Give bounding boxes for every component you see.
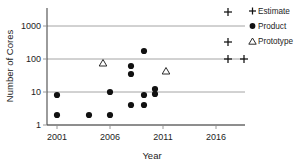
x-tick-label-2006: 2006 — [100, 132, 120, 142]
data-point-product — [141, 102, 147, 108]
y-tick-label-1000: 1000 — [21, 21, 41, 31]
legend-label-estimate: Estimate — [258, 7, 290, 16]
data-point-product — [107, 112, 113, 118]
data-point-product — [152, 91, 158, 97]
chart-figure: 1000 100 10 1 2001 2006 2011 2016 Year N… — [0, 0, 299, 164]
x-tick-label-2016: 2016 — [206, 132, 226, 142]
x-tick-label-2001: 2001 — [47, 132, 67, 142]
data-point-product — [128, 63, 134, 69]
y-axis-title: Number of Cores — [4, 30, 15, 103]
circle-icon — [250, 23, 256, 29]
data-point-product — [128, 102, 134, 108]
data-point-product — [141, 92, 147, 98]
data-point-product — [54, 112, 60, 118]
y-tick-label-100: 100 — [26, 54, 41, 64]
legend-label-prototype: Prototype — [258, 37, 293, 46]
x-tick-label-2011: 2011 — [153, 132, 172, 142]
data-point-product — [107, 89, 113, 95]
x-axis-title: Year — [142, 150, 161, 161]
data-point-product — [86, 112, 92, 118]
scatter-plot-svg: 1000 100 10 1 2001 2006 2011 2016 Year N… — [0, 0, 299, 164]
legend-label-product: Product — [258, 22, 287, 31]
data-point-product — [128, 71, 134, 77]
y-tick-label-1: 1 — [36, 120, 41, 130]
data-point-product — [141, 48, 147, 54]
data-point-product — [54, 92, 60, 98]
y-tick-label-10: 10 — [31, 87, 41, 97]
